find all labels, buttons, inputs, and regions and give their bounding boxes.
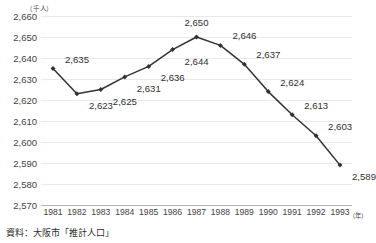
y-axis-tick: 2,650 [13,32,37,43]
data-point-label: 2,644 [185,55,209,66]
source-note: 資料：大阪市「推計人口」 [6,226,114,239]
y-axis-tick: 2,640 [13,53,37,64]
x-axis-tick: 1984 [115,207,134,217]
y-axis-tick: 2,610 [13,116,37,127]
data-point-label: 2,650 [184,17,208,28]
gridline [41,205,352,206]
x-axis-tick: 1992 [307,207,326,217]
data-point-label: 2,603 [328,120,352,131]
x-axis-tick: 1983 [91,207,110,217]
y-axis-tick: 2,660 [13,11,37,22]
data-point-label: 2,631 [137,82,161,93]
data-point-label: 2,589 [352,171,376,182]
data-point-label: 2,625 [113,95,137,106]
x-axis-tick-labels: 1981198219831984198519861987198819891990… [41,207,352,221]
series-line [41,16,352,205]
y-axis-tick-labels: 2,6602,6502,6402,6302,6202,6102,6002,590… [0,16,37,205]
x-axis-unit-label: （年） [349,211,367,220]
x-axis-tick: 1981 [43,207,62,217]
data-point-label: 2,637 [256,49,280,60]
data-point-label: 2,623 [89,99,113,110]
data-point-label: 2,624 [280,76,304,87]
data-point-label: 2,613 [304,99,328,110]
x-axis-tick: 1989 [235,207,254,217]
data-point-label: 2,636 [161,72,185,83]
y-axis-tick: 2,620 [13,95,37,106]
x-axis-tick: 1985 [139,207,158,217]
x-axis-tick: 1986 [163,207,182,217]
data-point-label: 2,646 [232,30,256,41]
y-axis-tick: 2,590 [13,158,37,169]
x-axis-tick: 1987 [187,207,206,217]
y-axis-tick: 2,580 [13,179,37,190]
y-axis-tick: 2,570 [13,200,37,211]
x-axis-tick: 1990 [259,207,278,217]
x-axis-tick: 1991 [283,207,302,217]
y-axis-tick: 2,630 [13,74,37,85]
data-point-label: 2,635 [65,53,89,64]
x-axis-tick: 1993 [330,207,349,217]
x-axis-tick: 1988 [211,207,230,217]
plot-area: 2,6352,6232,6252,6312,6362,6442,6502,646… [41,16,352,205]
x-axis-tick: 1982 [67,207,86,217]
y-axis-tick: 2,600 [13,137,37,148]
